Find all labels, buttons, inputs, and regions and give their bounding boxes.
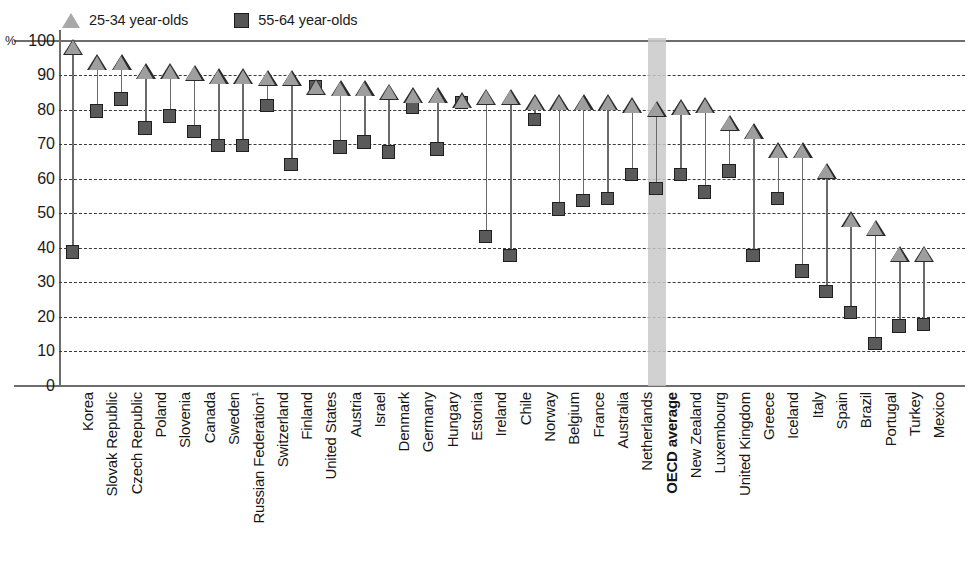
data-point-triangle (843, 213, 859, 227)
gridline-60 (59, 179, 965, 180)
data-point-square (357, 135, 371, 149)
chart-page: 25-34 year-olds 55-64 year-olds 10090807… (0, 0, 973, 574)
data-point-square (722, 164, 736, 178)
data-point-square (503, 249, 517, 263)
y-tick-label-30: 30 (21, 273, 55, 291)
category-label-hungary: Hungary (444, 392, 461, 447)
connector-line (242, 77, 244, 146)
data-point-square (576, 194, 590, 208)
connector-line (437, 96, 439, 149)
connector-line (145, 72, 147, 129)
category-label-finland: Finland (298, 392, 315, 440)
y-tick-label-50: 50 (21, 204, 55, 222)
legend-item-55-64: 55-64 year-olds (234, 12, 357, 28)
data-point-triangle (308, 80, 324, 94)
gridline-80 (59, 110, 965, 111)
category-label-austria: Austria (347, 392, 364, 437)
chart-legend: 25-34 year-olds 55-64 year-olds (62, 6, 358, 34)
category-label-slovak-republic: Slovak Republic (103, 392, 120, 497)
gridline-50 (59, 213, 965, 214)
data-point-triangle (210, 70, 226, 84)
triangle-icon (62, 13, 80, 28)
data-point-triangle (502, 90, 518, 104)
data-point-triangle-outline (379, 84, 399, 100)
y-tick-label-70: 70 (21, 135, 55, 153)
data-point-triangle (89, 56, 105, 70)
data-point-triangle-outline (549, 94, 569, 110)
data-point-square (309, 80, 323, 94)
y-axis-line (59, 30, 61, 386)
data-point-triangle (916, 247, 932, 261)
data-point-triangle (745, 125, 761, 139)
connector-line (583, 103, 585, 201)
category-label-russian-federation: Russian Federation1 (249, 392, 267, 524)
connector-line (291, 79, 293, 165)
connector-line (778, 151, 780, 199)
connector-line (607, 103, 609, 199)
data-point-triangle-outline (476, 89, 496, 105)
category-label-mexico: Mexico (930, 392, 947, 438)
category-label-denmark: Denmark (395, 392, 412, 451)
data-point-square (406, 101, 420, 115)
data-point-triangle-outline (331, 80, 351, 96)
data-point-triangle-outline (501, 89, 521, 105)
category-label-korea: Korea (79, 392, 96, 431)
category-label-israel: Israel (371, 392, 388, 427)
category-label-portugal: Portugal (882, 392, 899, 446)
data-point-triangle-outline (622, 97, 642, 113)
data-point-triangle-outline (160, 63, 180, 79)
data-point-triangle (867, 221, 883, 235)
data-point-triangle (527, 96, 543, 110)
gridline-20 (59, 317, 965, 318)
legend-label-25-34: 25-34 year-olds (89, 12, 188, 28)
data-point-square (819, 285, 833, 299)
category-label-switzerland: Switzerland (274, 392, 291, 467)
category-label-australia: Australia (614, 392, 631, 449)
square-icon (234, 13, 249, 28)
data-point-triangle (891, 247, 907, 261)
data-point-triangle-outline (866, 220, 886, 236)
category-label-netherlands: Netherlands (638, 392, 655, 471)
data-point-triangle-outline (671, 99, 691, 115)
data-point-triangle (721, 116, 737, 130)
data-point-triangle (600, 96, 616, 110)
data-point-square (698, 185, 712, 199)
data-point-square (795, 264, 809, 278)
data-point-triangle-outline (87, 54, 107, 70)
data-point-triangle (478, 90, 494, 104)
gridline-10 (59, 351, 965, 352)
data-point-triangle (673, 101, 689, 115)
y-tick-label-90: 90 (21, 66, 55, 84)
data-point-triangle (429, 89, 445, 103)
category-label-italy: Italy (809, 392, 826, 419)
connector-line (729, 124, 731, 172)
data-point-triangle (770, 144, 786, 158)
category-label-iceland: Iceland (784, 392, 801, 439)
y-tick-label-100: 100 (21, 32, 55, 50)
data-point-square (187, 125, 201, 139)
data-point-square (892, 319, 906, 333)
data-point-triangle (381, 85, 397, 99)
connector-line (510, 98, 512, 256)
data-point-triangle (113, 56, 129, 70)
x-axis-category-labels: KoreaSlovak RepublicCzech RepublicPoland… (0, 386, 973, 574)
data-point-square (917, 318, 931, 332)
category-label-france: France (590, 392, 607, 438)
data-point-triangle (65, 40, 81, 54)
y-tick-label-80: 80 (21, 101, 55, 119)
data-point-triangle-outline (136, 63, 156, 79)
legend-item-25-34: 25-34 year-olds (62, 12, 188, 28)
data-point-square (382, 145, 396, 159)
gridline-30 (59, 282, 965, 283)
category-label-estonia: Estonia (468, 392, 485, 441)
data-point-triangle-outline (817, 163, 837, 179)
category-label-norway: Norway (541, 392, 558, 442)
category-label-united-states: United States (322, 392, 339, 479)
data-point-triangle (454, 94, 470, 108)
category-label-spain: Spain (833, 392, 850, 429)
connector-line (413, 96, 415, 108)
data-point-triangle (283, 71, 299, 85)
oecd-average-highlight-band (648, 38, 666, 386)
category-label-new-zealand: New Zealand (687, 392, 704, 478)
data-point-triangle-outline (720, 115, 740, 131)
